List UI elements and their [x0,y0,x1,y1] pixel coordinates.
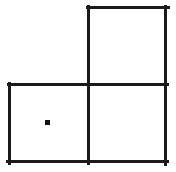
interior-point-marker [45,120,50,125]
figure-canvas: L-shaped tromino outline with point mark… [0,0,176,172]
l-tromino-figure: L-shaped tromino outline with point mark… [0,0,176,172]
